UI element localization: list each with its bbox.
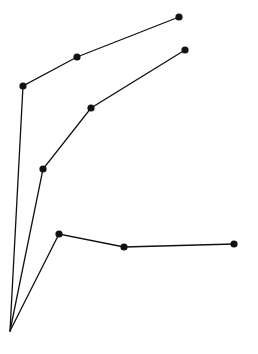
lower-branch-node-1 [55, 230, 62, 237]
middle-branch-node-3 [181, 46, 188, 53]
upper-branch-node-2 [73, 53, 80, 60]
middle-branch-node-1 [39, 165, 46, 172]
middle-branch-node-2 [87, 104, 94, 111]
upper-branch-node-3 [175, 13, 182, 20]
branch-diagram [0, 0, 258, 354]
diagram-nodes [19, 13, 237, 250]
upper-branch-node-1 [19, 82, 26, 89]
upper-branch-path [10, 17, 179, 331]
lower-branch-node-2 [120, 243, 127, 250]
middle-branch-path [10, 50, 185, 331]
diagram-edges [10, 17, 234, 331]
lower-branch-node-3 [230, 240, 237, 247]
